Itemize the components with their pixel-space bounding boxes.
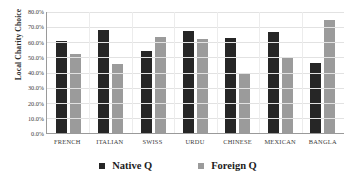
bar-chart: Local Charity Choice 80.0%70.0%60.0%50.0… [0,0,356,186]
gridline [47,57,344,58]
x-axis-category-labels: FRENCHITALIANSWISSURDUCHINESEMEXICANBANG… [46,136,344,150]
category-separator [132,12,133,133]
x-axis-category-label: CHINESE [216,136,259,150]
legend-label: Foreign Q [211,160,257,171]
y-axis-tick-label: 20.0% [14,100,44,106]
x-axis-category-label: ITALIAN [89,136,132,150]
x-axis-category-label: FRENCH [46,136,89,150]
bar[interactable] [112,64,123,133]
category-separator [302,12,303,133]
gridline [47,12,344,13]
bar[interactable] [141,51,152,133]
y-axis-tick-label: 60.0% [14,39,44,45]
x-axis-category-label: BANGLA [301,136,344,150]
bar[interactable] [324,20,335,133]
legend: Native QForeign Q [0,160,356,171]
category-separator [217,12,218,133]
y-axis-tick-label: 40.0% [14,70,44,76]
category-separator [259,12,260,133]
x-axis-category-label: SWISS [131,136,174,150]
gridline [47,118,344,119]
legend-entry[interactable]: Native Q [99,160,152,171]
gridline [47,103,344,104]
y-axis-tick-label: 10.0% [14,116,44,122]
gridline [47,73,344,74]
bar[interactable] [282,58,293,133]
y-axis-tick-labels: 80.0%70.0%60.0%50.0%40.0%30.0%20.0%10.0%… [14,12,44,134]
plot-area [46,12,344,134]
legend-swatch-icon [198,163,204,169]
gridline [47,42,344,43]
bar[interactable] [197,39,208,133]
category-separator [89,12,90,133]
y-axis-tick-label: 70.0% [14,24,44,30]
x-axis-category-label: URDU [174,136,217,150]
y-axis-tick-label: 80.0% [14,9,44,15]
legend-swatch-icon [99,163,105,169]
gridline [47,27,344,28]
legend-entry[interactable]: Foreign Q [198,160,257,171]
gridline [47,88,344,89]
y-axis-tick-label: 0.0% [14,131,44,137]
legend-label: Native Q [112,160,152,171]
x-axis-category-label: MEXICAN [259,136,302,150]
y-axis-tick-label: 30.0% [14,85,44,91]
bar[interactable] [70,54,81,133]
category-separator [174,12,175,133]
y-axis-tick-label: 50.0% [14,55,44,61]
